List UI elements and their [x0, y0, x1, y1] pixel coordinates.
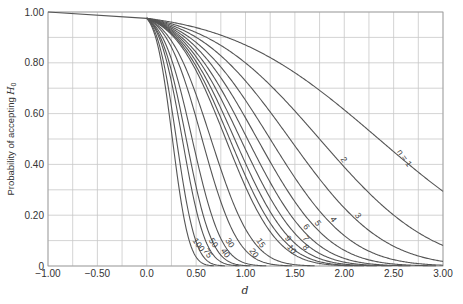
curve-label: 3 [353, 211, 364, 221]
y-tick-label: 0.80 [25, 57, 45, 68]
oc-curve [147, 18, 392, 265]
x-tick-label: 1.50 [285, 268, 305, 279]
oc-curve-chart: n = 12345678910152030405075100 00.200.40… [0, 0, 463, 304]
curve-label: n = 1 [395, 147, 414, 169]
oc-curve [147, 18, 377, 265]
x-tick-label: 2.50 [384, 268, 404, 279]
y-tick-label: 0.20 [25, 210, 45, 221]
x-tick-label: 0.50 [186, 268, 206, 279]
x-tick-label: 1.00 [236, 268, 256, 279]
x-tick-label: −0.50 [85, 268, 111, 279]
y-tick-label: 1.00 [25, 7, 45, 18]
y-axis-ticks: 00.200.400.600.801.00 [25, 7, 45, 272]
x-tick-label: 0.0 [140, 268, 154, 279]
x-tick-label: 2.00 [335, 268, 355, 279]
x-tick-label: 3.00 [433, 268, 453, 279]
y-axis-label: Probability of accepting H0 [5, 82, 17, 195]
x-tick-label: −1.00 [35, 268, 61, 279]
curve-label: 7 [301, 233, 312, 243]
curve-label: 8 [301, 242, 312, 252]
y-tick-label: 0.60 [25, 108, 45, 119]
y-tick-label: 0.40 [25, 159, 45, 170]
x-axis-label: d [241, 284, 248, 297]
x-axis-ticks: −1.00−0.500.00.501.001.502.002.503.00 [35, 268, 453, 279]
